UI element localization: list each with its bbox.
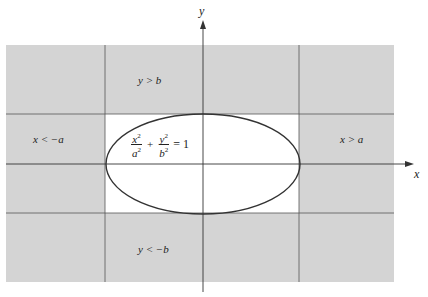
plus-sign: + xyxy=(147,138,153,150)
exponent: 2 xyxy=(164,132,168,140)
fraction-y: y2 b2 xyxy=(158,131,169,157)
region-label-top: y > b xyxy=(138,74,161,86)
equals-one: = 1 xyxy=(173,137,189,152)
exponent: 2 xyxy=(165,146,169,154)
region-label-right: x > a xyxy=(340,133,363,145)
fraction-x: x2 a2 xyxy=(131,131,142,157)
ellipse-equation: x2 a2 + y2 b2 = 1 xyxy=(131,131,189,157)
exponent: 2 xyxy=(138,146,142,154)
region-label-bottom: y < −b xyxy=(138,243,169,255)
x-axis-label: x xyxy=(414,167,419,182)
exponent: 2 xyxy=(137,132,141,140)
y-axis-label: y xyxy=(199,4,204,19)
region-label-left: x < −a xyxy=(33,133,64,145)
